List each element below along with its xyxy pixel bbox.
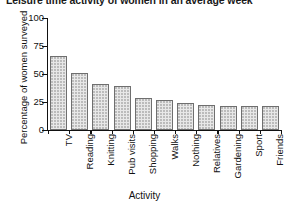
- y-axis-label: Percentage of women surveyed: [18, 3, 29, 153]
- bar-slot: [217, 18, 238, 130]
- bar-slot: [260, 18, 281, 130]
- bar-tv: [50, 56, 67, 130]
- bar-slot: [69, 18, 90, 130]
- bar-friends: [262, 106, 279, 130]
- x-tick-label-walks: Walks: [169, 134, 180, 160]
- bar-relatives: [198, 105, 215, 130]
- y-tick-label: 100: [28, 12, 44, 23]
- x-tick-label-pub-visits: Pub visits: [126, 134, 137, 175]
- x-axis-line: [47, 130, 282, 131]
- bar-slot: [175, 18, 196, 130]
- bar-slot: [239, 18, 260, 130]
- bar-pub-visits: [114, 86, 131, 130]
- bar-nothing: [177, 103, 194, 130]
- chart-title: Leisure time activity of women in an ave…: [6, 0, 289, 6]
- x-tick-label-shopping: Shopping: [147, 134, 158, 174]
- bar-slot: [133, 18, 154, 130]
- x-tick-label-relatives: Relatives: [211, 134, 222, 173]
- y-tick-label: 0: [39, 124, 44, 135]
- bar-slot: [112, 18, 133, 130]
- x-tick-label-nothing: Nothing: [190, 134, 201, 167]
- bar-slot: [90, 18, 111, 130]
- bar-walks: [156, 100, 173, 130]
- plot-area: 0255075100: [47, 18, 282, 130]
- bar-series: [48, 18, 282, 130]
- x-tick-label-knitting: Knitting: [105, 134, 116, 166]
- y-tick-label: 50: [33, 68, 44, 79]
- x-tick-mark: [48, 130, 49, 134]
- bar-gardening: [220, 106, 237, 130]
- x-tick-label-gardening: Gardening: [232, 134, 243, 178]
- x-axis-label: Activity: [0, 190, 289, 201]
- y-tick-label: 25: [33, 96, 44, 107]
- bar-slot: [154, 18, 175, 130]
- chart-figure: Leisure time activity of women in an ave…: [0, 0, 289, 213]
- x-tick-label-tv: TV: [63, 134, 74, 146]
- bar-slot: [48, 18, 69, 130]
- bar-shopping: [135, 98, 152, 130]
- y-tick-label: 75: [33, 40, 44, 51]
- bar-slot: [196, 18, 217, 130]
- bar-knitting: [92, 84, 109, 130]
- bar-sport: [241, 106, 258, 130]
- x-tick-label-friends: Friends: [274, 134, 285, 166]
- bar-reading: [71, 73, 88, 130]
- x-tick-label-reading: Reading: [84, 134, 95, 169]
- x-tick-label-sport: Sport: [253, 134, 264, 157]
